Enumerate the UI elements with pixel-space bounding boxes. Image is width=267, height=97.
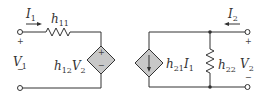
junction-dot bbox=[208, 85, 212, 89]
input-bottom-terminal bbox=[18, 86, 23, 91]
output-bottom-terminal bbox=[245, 85, 250, 90]
v2-minus-sign: − bbox=[245, 74, 252, 82]
v2-plus-sign: + bbox=[245, 38, 252, 46]
two-port-h-parameter-diagram: I1 h11 + V1 − h12V2 + − h21I1 h22 I2 + V… bbox=[0, 0, 267, 97]
source-minus-sign: − bbox=[98, 62, 105, 70]
v2-label: V2 bbox=[240, 58, 254, 73]
circuit-wiring bbox=[0, 0, 267, 97]
h12v2-label: h12V2 bbox=[54, 60, 86, 75]
source-plus-sign: + bbox=[98, 49, 105, 57]
i1-label: I1 bbox=[26, 8, 36, 23]
h21i1-label: h21I1 bbox=[166, 58, 194, 73]
h22-resistor-icon bbox=[206, 49, 214, 73]
output-top-terminal bbox=[245, 30, 250, 35]
v1-minus-sign: − bbox=[17, 66, 24, 74]
i2-label: I2 bbox=[228, 8, 238, 23]
junction-dot bbox=[208, 30, 212, 34]
input-top-terminal bbox=[18, 30, 23, 35]
h22-label: h22 bbox=[218, 59, 236, 74]
v1-plus-sign: + bbox=[17, 38, 24, 46]
h11-resistor-icon bbox=[46, 28, 70, 36]
h11-label: h11 bbox=[51, 13, 69, 28]
